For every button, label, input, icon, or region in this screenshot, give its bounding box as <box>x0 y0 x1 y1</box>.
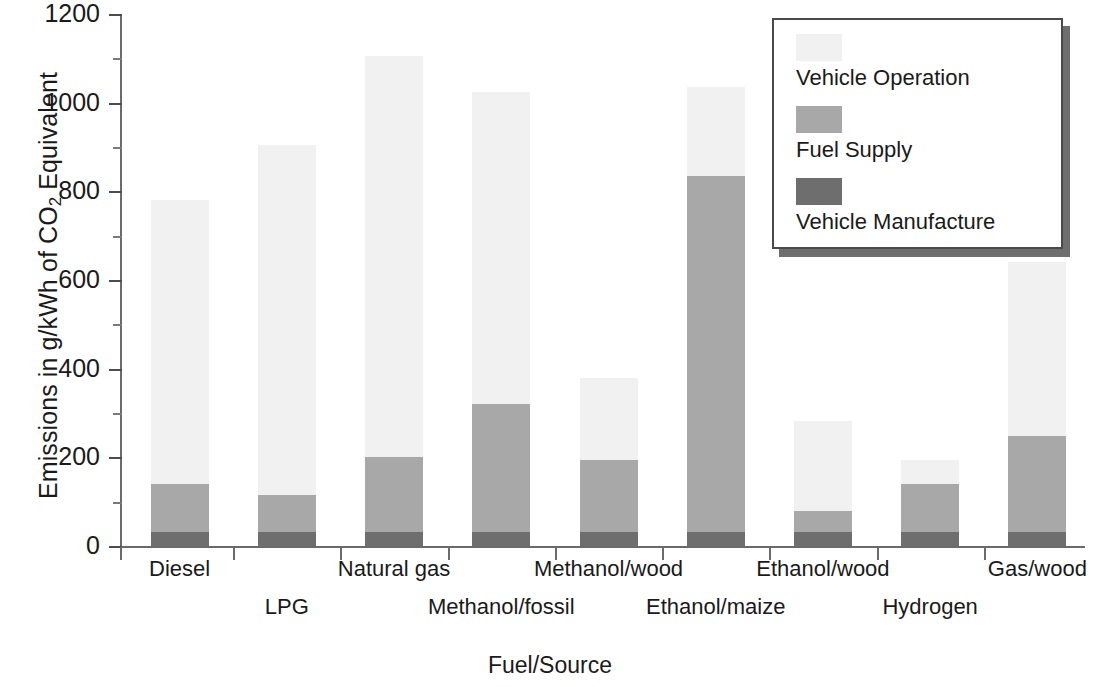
y-minor-tick-100 <box>113 502 122 504</box>
bar-ethanol-maize[interactable] <box>687 87 745 546</box>
bar-segment-vehicle-operation <box>687 87 745 176</box>
y-minor-tick-700 <box>113 236 122 238</box>
bar-segment-vehicle-manufacture <box>1008 532 1066 546</box>
bar-segment-vehicle-manufacture <box>580 532 638 546</box>
bar-segment-fuel-supply <box>365 457 423 531</box>
bar-hydrogen[interactable] <box>901 460 959 546</box>
bar-segment-vehicle-operation <box>472 92 530 405</box>
legend-swatch-vehicle-manufacture <box>796 178 842 205</box>
bar-lpg[interactable] <box>258 145 316 546</box>
y-minor-tick-1100 <box>113 58 122 60</box>
y-minor-tick-500 <box>113 324 122 326</box>
x-axis-label-diesel: Diesel <box>149 556 210 582</box>
bar-segment-vehicle-operation <box>365 56 423 457</box>
x-axis-label-ethanol-maize: Ethanol/maize <box>646 594 785 620</box>
bar-segment-vehicle-operation <box>151 200 209 484</box>
bar-segment-vehicle-manufacture <box>794 532 852 546</box>
x-tick-1 <box>233 547 235 560</box>
bar-segment-fuel-supply <box>687 176 745 532</box>
y-tick-label-200: 200 <box>10 444 100 469</box>
legend-entry-vehicle-manufacture[interactable]: Vehicle Manufacture <box>796 178 995 235</box>
y-minor-tick-300 <box>113 413 122 415</box>
bar-diesel[interactable] <box>151 200 209 546</box>
y-tick-label-1200: 1200 <box>10 1 100 26</box>
x-axis-label-methanol-wood: Methanol/wood <box>534 556 683 582</box>
y-tick-label-0: 0 <box>10 533 100 558</box>
legend-entry-fuel-supply[interactable]: Fuel Supply <box>796 106 912 163</box>
y-tick-600 <box>109 280 122 282</box>
y-tick-1000 <box>109 103 122 105</box>
bar-segment-vehicle-manufacture <box>687 532 745 546</box>
x-axis-label-gas-wood: Gas/wood <box>988 556 1087 582</box>
y-tick-label-800: 800 <box>10 178 100 203</box>
y-tick-1200 <box>109 14 122 16</box>
y-tick-label-1000: 1000 <box>10 90 100 115</box>
x-axis-title: Fuel/Source <box>0 652 1100 679</box>
bar-segment-vehicle-operation <box>1008 262 1066 436</box>
legend-label-vehicle-manufacture: Vehicle Manufacture <box>796 209 995 235</box>
bar-segment-vehicle-manufacture <box>365 532 423 546</box>
x-tick-8 <box>984 547 986 560</box>
legend-label-fuel-supply: Fuel Supply <box>796 137 912 163</box>
x-tick-0 <box>120 547 122 560</box>
x-axis-label-lpg: LPG <box>265 594 309 620</box>
bar-methanol-fossil[interactable] <box>472 92 530 546</box>
bar-segment-vehicle-operation <box>258 145 316 495</box>
y-tick-200 <box>109 457 122 459</box>
bar-segment-vehicle-operation <box>580 378 638 461</box>
bar-gas-wood[interactable] <box>1008 262 1066 546</box>
y-minor-tick-900 <box>113 147 122 149</box>
bar-segment-fuel-supply <box>580 460 638 531</box>
bar-segment-vehicle-manufacture <box>472 532 530 546</box>
legend-label-vehicle-operation: Vehicle Operation <box>796 65 970 91</box>
bar-segment-vehicle-manufacture <box>151 532 209 546</box>
bar-segment-vehicle-manufacture <box>258 532 316 546</box>
bar-segment-vehicle-operation <box>794 421 852 511</box>
y-tick-label-400: 400 <box>10 356 100 381</box>
bar-methanol-wood[interactable] <box>580 378 638 546</box>
bar-segment-vehicle-operation <box>901 460 959 484</box>
y-tick-label-group: 020040060080010001200 <box>8 14 100 546</box>
x-axis-label-methanol-fossil: Methanol/fossil <box>428 594 575 620</box>
bar-segment-fuel-supply <box>901 484 959 532</box>
x-axis-label-ethanol-wood: Ethanol/wood <box>756 556 889 582</box>
legend-entry-vehicle-operation[interactable]: Vehicle Operation <box>796 34 970 91</box>
x-axis-label-natural-gas: Natural gas <box>338 556 451 582</box>
y-tick-400 <box>109 369 122 371</box>
x-axis-line <box>120 546 1085 548</box>
legend: Vehicle OperationFuel SupplyVehicle Manu… <box>772 18 1063 249</box>
legend-swatch-fuel-supply <box>796 106 842 133</box>
bar-segment-fuel-supply <box>794 511 852 532</box>
x-axis-label-hydrogen: Hydrogen <box>882 594 977 620</box>
legend-swatch-vehicle-operation <box>796 34 842 61</box>
bar-segment-fuel-supply <box>258 495 316 532</box>
bar-segment-fuel-supply <box>472 404 530 532</box>
bar-natural-gas[interactable] <box>365 56 423 546</box>
y-tick-800 <box>109 191 122 193</box>
bar-segment-fuel-supply <box>151 484 209 532</box>
y-tick-label-600: 600 <box>10 267 100 292</box>
stacked-bar-chart: Emissions in g/kWh of CO2 Equivalent 020… <box>0 0 1100 687</box>
bar-ethanol-wood[interactable] <box>794 421 852 546</box>
bar-segment-vehicle-manufacture <box>901 532 959 546</box>
bar-segment-fuel-supply <box>1008 436 1066 532</box>
